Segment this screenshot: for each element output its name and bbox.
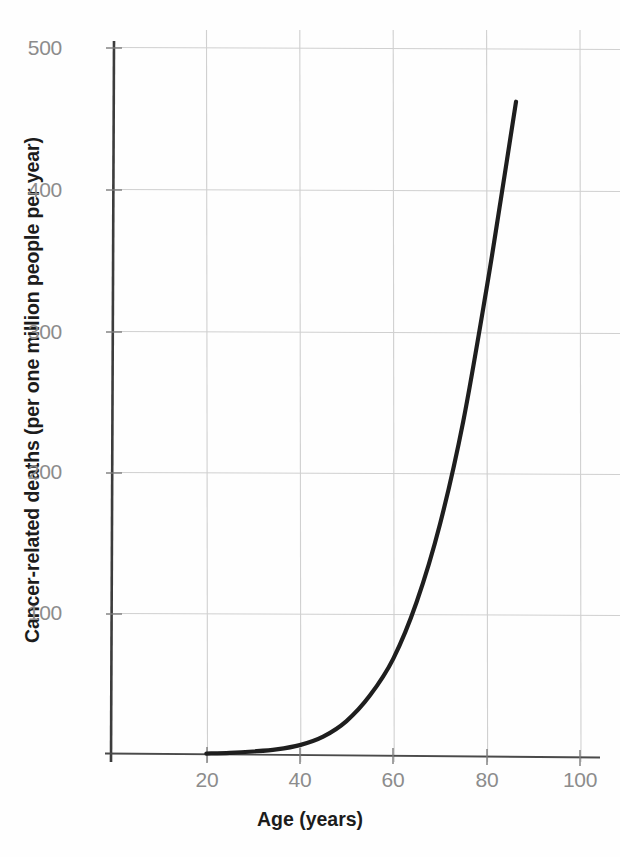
x-axis-line xyxy=(105,754,600,758)
chart-figure: Cancer-related deaths (per one million p… xyxy=(0,0,620,857)
plot-area: 100 200 300 400 500 20 40 60 80 100 xyxy=(0,0,620,800)
y-axis-line xyxy=(111,41,114,762)
data-series-curve xyxy=(206,102,516,754)
horizontal-gridlines xyxy=(113,48,620,616)
chart-canvas xyxy=(0,0,620,857)
vertical-gridlines xyxy=(207,30,582,762)
